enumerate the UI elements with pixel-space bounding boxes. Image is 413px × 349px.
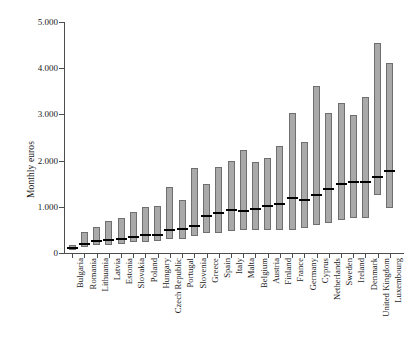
range-bar xyxy=(179,200,186,239)
x-axis-tick-label: Malta xyxy=(246,258,256,278)
x-axis-tick-label: Spain xyxy=(222,258,232,278)
median-marker xyxy=(177,228,188,230)
median-marker xyxy=(311,194,322,196)
y-axis-tick-label: 1.000 xyxy=(38,202,58,212)
x-axis-tick-label: Finland xyxy=(283,258,293,285)
median-marker xyxy=(79,243,90,245)
median-marker xyxy=(226,209,237,211)
y-axis-tick xyxy=(59,22,64,23)
minimum-wage-range-chart: Monthly euros 01.0002.0003.0004.0005.000… xyxy=(0,0,413,349)
median-marker xyxy=(274,203,285,205)
median-marker xyxy=(128,236,139,238)
range-bar xyxy=(264,158,271,230)
range-bar xyxy=(301,142,308,227)
range-bar xyxy=(289,113,296,230)
median-marker xyxy=(287,197,298,199)
median-marker xyxy=(91,240,102,242)
range-bar xyxy=(325,113,332,223)
median-marker xyxy=(164,229,175,231)
range-bar xyxy=(276,146,283,230)
x-axis-tick-label: Latvia xyxy=(112,258,122,280)
range-bar xyxy=(350,115,357,218)
range-bar xyxy=(154,206,161,242)
x-axis-tick-label: Poland xyxy=(149,258,159,282)
x-axis-tick-label: Germany xyxy=(308,258,318,290)
x-axis-tick-label: France xyxy=(295,258,305,282)
range-bar xyxy=(338,103,345,219)
x-axis-tick-label: Sweden xyxy=(344,258,354,286)
range-bar xyxy=(93,227,100,245)
y-axis-tick xyxy=(59,161,64,162)
range-bar xyxy=(105,221,112,245)
range-bar xyxy=(166,187,173,239)
median-marker xyxy=(299,199,310,201)
median-marker xyxy=(238,210,249,212)
range-bar xyxy=(313,86,320,226)
range-bar xyxy=(215,167,222,234)
x-axis-tick-label: Austria xyxy=(271,258,281,284)
median-marker xyxy=(323,188,334,190)
median-marker xyxy=(336,183,347,185)
median-marker xyxy=(384,170,395,172)
range-bar xyxy=(362,97,369,218)
x-axis-tick-label: Czech Republic xyxy=(173,258,183,313)
range-bar xyxy=(240,150,247,231)
range-bar xyxy=(142,207,149,242)
median-marker xyxy=(189,225,200,227)
y-axis-tick-label: 0 xyxy=(54,248,59,258)
y-axis-tick-label: 2.000 xyxy=(38,156,58,166)
x-axis-tick-label: Denmark xyxy=(369,258,379,290)
median-marker xyxy=(67,247,78,249)
y-axis-tick xyxy=(59,114,64,115)
x-axis-tick-label: Portugal xyxy=(185,258,195,288)
x-axis-tick-label: Bulgaria xyxy=(75,258,85,288)
x-axis-tick-label: Netherlands xyxy=(332,258,342,300)
range-bar xyxy=(203,184,210,233)
y-axis-tick-label: 3.000 xyxy=(38,109,58,119)
median-marker xyxy=(116,238,127,240)
median-marker xyxy=(360,181,371,183)
y-axis-tick xyxy=(59,68,64,69)
y-axis-tick xyxy=(59,253,64,254)
x-axis-tick-label: United Kingdom xyxy=(381,258,391,317)
x-axis-tick-label: Italy xyxy=(234,258,244,274)
range-bar xyxy=(386,63,393,208)
x-axis-tick-label: Greece xyxy=(210,258,220,283)
median-marker xyxy=(152,234,163,236)
x-axis-tick-label: Cyprus xyxy=(320,258,330,283)
x-axis-tick-label: Lithuania xyxy=(100,258,110,291)
median-marker xyxy=(103,239,114,241)
plot-area xyxy=(64,18,404,253)
range-bar xyxy=(81,232,88,248)
x-axis-tick-label: Estonia xyxy=(124,258,134,284)
y-axis-line xyxy=(64,22,65,253)
y-axis-tick-label: 5.000 xyxy=(38,17,58,27)
median-marker xyxy=(213,212,224,214)
x-axis-tick-label: Ireland xyxy=(356,258,366,283)
y-axis-tick-label: 4.000 xyxy=(38,63,58,73)
median-marker xyxy=(348,181,359,183)
y-axis-tick xyxy=(59,207,64,208)
median-marker xyxy=(250,208,261,210)
x-axis-tick-labels: BulgariaRomaniaLithuaniaLatviaEstoniaSlo… xyxy=(64,258,404,348)
x-axis-tick-label: Romania xyxy=(88,258,98,289)
x-axis-tick-label: Hungary xyxy=(161,258,171,288)
median-marker xyxy=(140,234,151,236)
range-bar xyxy=(374,43,381,195)
median-marker xyxy=(201,215,212,217)
y-axis-tick-labels: 01.0002.0003.0004.0005.000 xyxy=(14,18,58,253)
range-bar xyxy=(228,161,235,232)
x-axis-tick-label: Luxembourg xyxy=(393,258,403,303)
range-bar xyxy=(252,162,259,230)
x-axis-tick-label: Belgium xyxy=(259,258,269,288)
median-marker xyxy=(372,176,383,178)
median-marker xyxy=(262,205,273,207)
x-axis-tick-label: Slovenia xyxy=(198,258,208,288)
x-axis-tick-label: Slovakia xyxy=(136,258,146,288)
